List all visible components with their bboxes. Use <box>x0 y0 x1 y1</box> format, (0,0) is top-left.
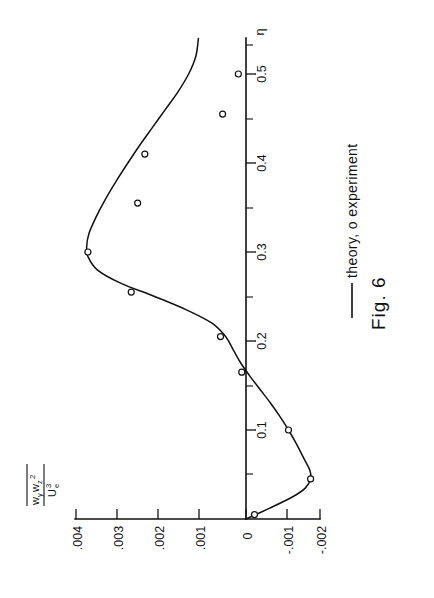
value-tick-label-3: .001 <box>194 526 208 550</box>
figure-caption: Fig. 6 <box>368 276 389 330</box>
data-point <box>308 476 314 482</box>
data-point <box>218 334 224 340</box>
eta-axis-tick-labels: 0.1 0.2 0.3 0.4 0.5 <box>255 65 269 438</box>
value-axis-numerator-sub-z: z <box>35 480 44 484</box>
value-tick-label-5: -.001 <box>282 526 296 555</box>
data-point <box>286 427 292 433</box>
data-point <box>142 151 148 157</box>
value-axis-ticks <box>76 509 320 519</box>
data-point <box>85 249 91 255</box>
data-point <box>135 200 141 206</box>
data-point <box>239 369 245 375</box>
eta-tick-label-2: 0.3 <box>255 243 269 260</box>
eta-tick-label-4: 0.5 <box>255 65 269 82</box>
value-axis-numerator-w1: w <box>29 497 41 506</box>
value-tick-label-0: .004 <box>71 526 85 550</box>
value-axis-numerator-sup-2: 2 <box>28 475 37 479</box>
legend-text: theory, o experiment <box>344 143 360 278</box>
value-tick-label-1: .003 <box>112 526 126 550</box>
eta-tick-label-1: 0.2 <box>255 332 269 349</box>
figure-container: .004 .003 .002 .001 0 -.001 -.002 0.1 <box>0 0 434 598</box>
value-axis-label: w y w z 2 U e 3 <box>27 464 61 506</box>
value-axis-tick-labels: .004 .003 .002 .001 0 -.001 -.002 <box>71 526 329 555</box>
data-point <box>128 289 134 295</box>
value-axis-denominator-U: U <box>46 489 58 497</box>
data-point <box>252 512 258 518</box>
value-tick-label-6: -.002 <box>315 526 329 555</box>
value-axis-numerator-w2: w <box>29 484 41 493</box>
value-tick-label-4: 0 <box>241 532 255 539</box>
experiment-points-group <box>85 71 314 518</box>
eta-tick-label-3: 0.4 <box>255 154 269 171</box>
data-point <box>235 71 241 77</box>
figure-svg: .004 .003 .002 .001 0 -.001 -.002 0.1 <box>0 0 434 598</box>
value-tick-label-2: .002 <box>153 526 167 550</box>
eta-tick-label-0: 0.1 <box>255 421 269 438</box>
value-axis-denominator-sub-e: e <box>52 484 61 488</box>
theory-curve <box>86 38 310 519</box>
data-point <box>220 111 226 117</box>
value-axis-numerator-sub-y: y <box>35 493 44 497</box>
legend: theory, o experiment <box>344 143 360 318</box>
eta-axis-label: η <box>253 28 267 35</box>
value-axis-denominator-sup-3: 3 <box>44 484 53 488</box>
